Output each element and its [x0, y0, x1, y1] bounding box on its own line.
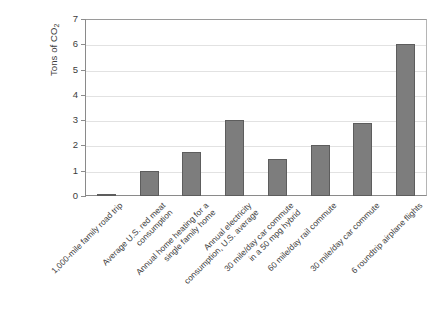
co2-emissions-bar-chart: Tons of CO2 01234567 1,000-mile family r… — [0, 0, 441, 314]
x-tick-label-line: 6 roundtrip airplane flights — [349, 200, 424, 275]
x-axis-labels: 1,000-mile family road tripAverage U.S. … — [0, 0, 441, 314]
